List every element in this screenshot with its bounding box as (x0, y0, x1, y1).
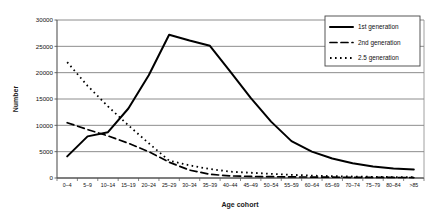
y-axis-title: Number (12, 86, 19, 113)
x-tick-label: 35–39 (203, 182, 218, 188)
y-tick-label: 30000 (36, 16, 54, 23)
x-tick-label: 60–64 (305, 182, 320, 188)
y-tick-label: 0 (50, 174, 54, 181)
chart-container: 050001000015000200002500030000 0–45–910–… (0, 0, 442, 215)
x-tick-label: 10–14 (101, 182, 116, 188)
x-tick-label: >85 (409, 182, 418, 188)
line-chart: 050001000015000200002500030000 0–45–910–… (0, 0, 442, 215)
legend-label-3: 2.5 generation (358, 54, 399, 62)
x-tick-label: 80–84 (386, 182, 401, 188)
x-tick-label: 0–4 (63, 182, 72, 188)
legend-label-2: 2nd generation (358, 39, 401, 47)
x-tick-label: 20–24 (142, 182, 157, 188)
legend-label-1: 1st generation (358, 23, 399, 31)
x-axis-title: Age cohort (222, 201, 260, 209)
x-tick-label: 50–54 (264, 182, 279, 188)
x-tick-label: 55–59 (284, 182, 299, 188)
x-tick-label: 25–29 (162, 182, 177, 188)
x-tick-label: 15–19 (121, 182, 136, 188)
y-tick-label: 5000 (39, 148, 53, 155)
y-tick-label: 20000 (36, 69, 54, 76)
y-tick-label: 25000 (36, 43, 54, 50)
x-tick-label: 70–74 (345, 182, 360, 188)
x-tick-label: 30–34 (182, 182, 197, 188)
x-tick-label: 75–79 (366, 182, 381, 188)
y-tick-label: 15000 (36, 95, 54, 102)
x-tick-label: 45–49 (243, 182, 258, 188)
y-tick-label: 10000 (36, 122, 54, 129)
legend: 1st generation2nd generation2.5 generati… (325, 16, 420, 66)
x-tick-label: 5–9 (83, 182, 92, 188)
x-tick-label: 40–44 (223, 182, 238, 188)
x-tick-label: 65–69 (325, 182, 340, 188)
